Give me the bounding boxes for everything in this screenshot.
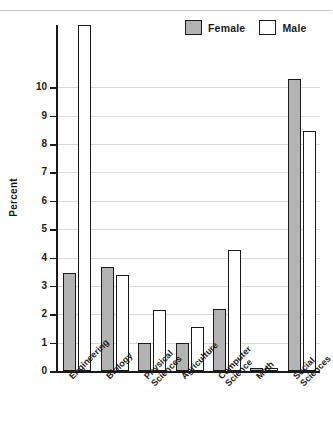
y-tick-label: 10: [36, 82, 47, 92]
bar-group: [138, 25, 166, 371]
bar-female: [288, 79, 301, 371]
y-tick-label: 7: [41, 167, 47, 177]
y-tick-label: 2: [41, 309, 47, 319]
y-axis-title: Percent: [8, 178, 19, 217]
y-tick: [50, 144, 57, 146]
y-tick: [50, 201, 57, 203]
bar-female: [213, 309, 226, 371]
bar-male: [303, 131, 316, 371]
y-tick-label: 5: [41, 224, 47, 234]
y-tick-label: 3: [41, 281, 47, 291]
bar-female: [101, 267, 114, 371]
y-tick-label: 4: [41, 253, 47, 263]
bar-group: [101, 25, 129, 371]
top-divider: [0, 10, 331, 11]
bar-series-layer: [58, 25, 320, 371]
y-tick: [50, 286, 57, 288]
y-tick: [50, 258, 57, 260]
y-tick-label: 8: [41, 139, 47, 149]
y-tick: [50, 87, 57, 89]
y-tick-label: 6: [41, 196, 47, 206]
y-tick-label: 0: [41, 366, 47, 376]
bar-female: [63, 273, 76, 371]
y-tick: [50, 229, 57, 231]
x-axis-category-labels: EngineeringBiologyPhysicalSciencesAgricu…: [56, 374, 320, 441]
y-tick: [50, 172, 57, 174]
bar-group: [250, 25, 278, 371]
bar-group: [213, 25, 241, 371]
y-tick-label: 9: [41, 111, 47, 121]
bar-group: [63, 25, 91, 371]
y-tick: [50, 371, 57, 373]
y-tick-label: 1: [41, 338, 47, 348]
bar-group: [176, 25, 204, 371]
y-tick: [50, 116, 57, 118]
y-tick: [50, 343, 57, 345]
plot-area: 012345678910: [56, 25, 320, 371]
bar-male: [78, 25, 91, 371]
bar-group: [288, 25, 316, 371]
y-tick: [50, 314, 57, 316]
